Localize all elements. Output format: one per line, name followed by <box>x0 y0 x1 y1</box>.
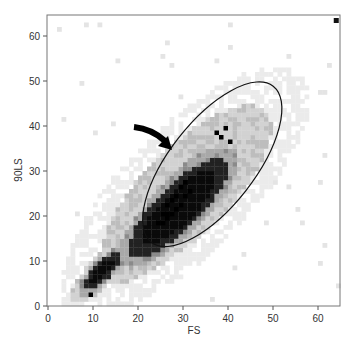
x-tick-label: 20 <box>132 313 144 324</box>
y-tick-label: 50 <box>29 76 41 87</box>
y-tick-label: 30 <box>29 166 41 177</box>
y-tick-label: 0 <box>34 301 40 312</box>
x-tick-label: 50 <box>267 313 279 324</box>
density-plot: 01020304050600102030405060 FS 90LS <box>0 0 352 348</box>
x-tick-label: 10 <box>87 313 99 324</box>
density-heatmap <box>57 18 341 306</box>
chart-container: 01020304050600102030405060 FS 90LS <box>0 0 352 348</box>
y-tick-label: 10 <box>29 256 41 267</box>
x-tick-label: 30 <box>177 313 189 324</box>
y-tick-label: 60 <box>29 31 41 42</box>
arrow-annotation <box>134 127 165 141</box>
x-tick-label: 40 <box>222 313 234 324</box>
y-tick-label: 40 <box>29 121 41 132</box>
x-tick-label: 0 <box>45 313 51 324</box>
y-tick-label: 20 <box>29 211 41 222</box>
x-tick-label: 60 <box>312 313 324 324</box>
y-axis-label: 90LS <box>13 158 24 182</box>
x-axis-label: FS <box>188 325 201 336</box>
